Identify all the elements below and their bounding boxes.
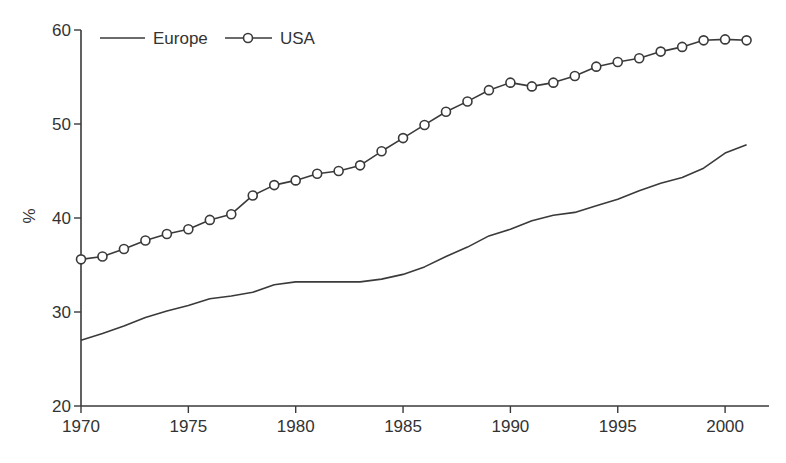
data-point-marker-icon	[527, 82, 536, 91]
data-point-marker-icon	[227, 210, 236, 219]
data-point-marker-icon	[484, 86, 493, 95]
data-point-marker-icon	[742, 36, 751, 45]
data-point-marker-icon	[506, 78, 515, 87]
data-point-marker-icon	[656, 47, 665, 56]
x-tick-label: 1980	[277, 417, 315, 436]
y-tick-label: 20	[52, 397, 71, 416]
data-point-marker-icon	[635, 54, 644, 63]
data-point-marker-icon	[184, 225, 193, 234]
data-point-marker-icon	[313, 169, 322, 178]
x-tick-label: 1975	[169, 417, 207, 436]
legend-usa-label: USA	[280, 29, 316, 48]
data-point-marker-icon	[334, 167, 343, 176]
legend-usa-marker-icon	[244, 34, 253, 43]
data-point-marker-icon	[592, 62, 601, 71]
data-point-marker-icon	[98, 252, 107, 261]
data-point-marker-icon	[77, 255, 86, 264]
y-tick-label: 50	[52, 115, 71, 134]
data-point-marker-icon	[291, 176, 300, 185]
series-group	[77, 35, 752, 340]
series-line-usa	[81, 39, 747, 259]
y-axis-label: %	[20, 208, 39, 223]
series-line-europe	[81, 145, 747, 341]
data-point-marker-icon	[678, 42, 687, 51]
x-tick-label: 1995	[599, 417, 637, 436]
line-chart: 20304050601970197519801985199019952000 E…	[0, 0, 786, 463]
axes: 20304050601970197519801985199019952000	[52, 21, 769, 436]
legend: Europe USA	[100, 29, 316, 48]
data-point-marker-icon	[721, 35, 730, 44]
data-point-marker-icon	[205, 215, 214, 224]
data-point-marker-icon	[699, 36, 708, 45]
x-tick-label: 1985	[384, 417, 422, 436]
data-point-marker-icon	[162, 229, 171, 238]
data-point-marker-icon	[119, 245, 128, 254]
y-tick-label: 40	[52, 209, 71, 228]
y-tick-label: 60	[52, 21, 71, 40]
data-point-marker-icon	[270, 181, 279, 190]
data-point-marker-icon	[549, 78, 558, 87]
data-point-marker-icon	[377, 147, 386, 156]
data-point-marker-icon	[399, 134, 408, 143]
data-point-marker-icon	[441, 107, 450, 116]
x-tick-label: 1990	[491, 417, 529, 436]
data-point-marker-icon	[141, 236, 150, 245]
data-point-marker-icon	[570, 72, 579, 81]
data-point-marker-icon	[463, 97, 472, 106]
data-point-marker-icon	[248, 191, 257, 200]
data-point-marker-icon	[356, 161, 365, 170]
legend-europe-label: Europe	[153, 29, 208, 48]
y-tick-label: 30	[52, 303, 71, 322]
x-tick-label: 1970	[62, 417, 100, 436]
data-point-marker-icon	[420, 120, 429, 129]
x-tick-label: 2000	[706, 417, 744, 436]
data-point-marker-icon	[613, 57, 622, 66]
